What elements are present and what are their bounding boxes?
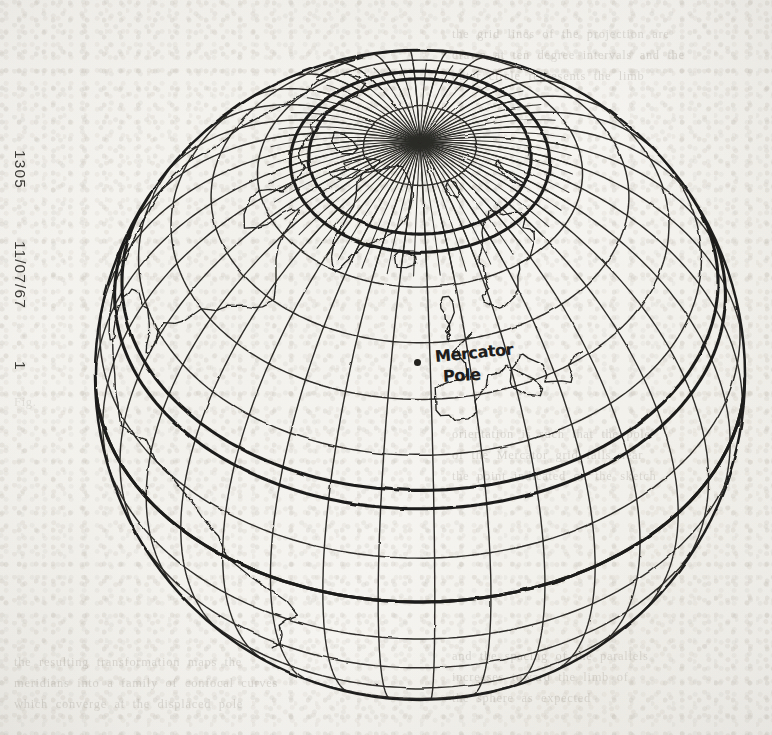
show-through-text-bottom-right: and the spacing of the parallels increas… (452, 646, 752, 709)
show-through-text-top-right: the grid lines of the projection are dra… (452, 24, 760, 87)
graticule-meridians (95, 50, 744, 700)
mercator-pole-marker (414, 359, 421, 366)
show-through-text-bottom: the resulting transformation maps the me… (14, 652, 444, 715)
graticule-emphasised-parallels (95, 71, 745, 602)
mercator-pole-label-line2: Pole (442, 362, 515, 388)
globe-figure (0, 0, 772, 735)
frame-number: 1305 (11, 150, 29, 189)
mercator-pole-label: Mercator Pole (434, 338, 516, 389)
scanned-page: the grid lines of the projection are dra… (0, 0, 772, 735)
scan-vignette (0, 0, 772, 735)
page-number: 1 (11, 361, 29, 371)
show-through-text-mid-right: orientation is such that the pole of the… (452, 424, 760, 487)
paper-texture (0, 0, 772, 735)
microfilm-frame-id: 1305 11/07/67 1 (0, 150, 40, 440)
graticule-parallels (100, 51, 740, 699)
globe-limb (95, 50, 745, 700)
frame-date: 11/07/67 (11, 241, 29, 309)
